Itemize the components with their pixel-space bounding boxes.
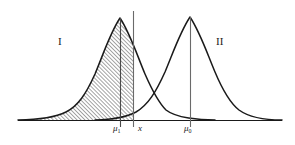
- mu1-subscript: 1: [118, 128, 121, 134]
- shaded-rejection-region: [18, 18, 215, 120]
- distribution-plot-svg: [0, 0, 295, 145]
- distribution-figure: I II μ1 x μ0: [0, 0, 295, 145]
- mu1-symbol: μ: [113, 123, 118, 133]
- axis-tick-label-x: x: [138, 124, 142, 133]
- axis-tick-label-mu0: μ0: [184, 124, 192, 133]
- mu0-symbol: μ: [184, 123, 189, 133]
- mu0-subscript: 0: [189, 128, 192, 134]
- region-label-i: I: [58, 36, 62, 47]
- axis-tick-label-mu1: μ1: [113, 124, 121, 133]
- region-label-ii: II: [216, 36, 223, 47]
